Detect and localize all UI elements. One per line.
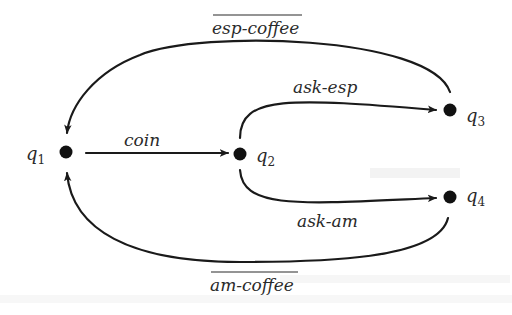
- edge-label-esp-coffee: esp-coffee: [212, 18, 299, 38]
- state-q3-node: [444, 104, 457, 117]
- edge-label-am-coffee: am-coffee: [210, 275, 294, 295]
- state-q1-node: [60, 146, 73, 159]
- edge-esp-coffee: [67, 41, 450, 133]
- state-q2-label: q2: [256, 145, 275, 169]
- edge-label-ask-esp: ask-esp: [293, 77, 357, 97]
- edge-label-coin: coin: [124, 130, 160, 150]
- state-diagram: q1 q2 q3 q4 coin ask-esp ask-am esp-coff…: [0, 0, 512, 315]
- state-q4-label: q4: [466, 185, 486, 209]
- state-q1-label: q1: [26, 143, 45, 167]
- state-q2-node: [234, 148, 247, 161]
- state-q4-node: [444, 191, 457, 204]
- edge-am-coffee: [67, 173, 448, 262]
- edge-ask-esp: [240, 102, 436, 138]
- state-q3-label: q3: [466, 105, 485, 129]
- edge-label-ask-am: ask-am: [297, 211, 358, 231]
